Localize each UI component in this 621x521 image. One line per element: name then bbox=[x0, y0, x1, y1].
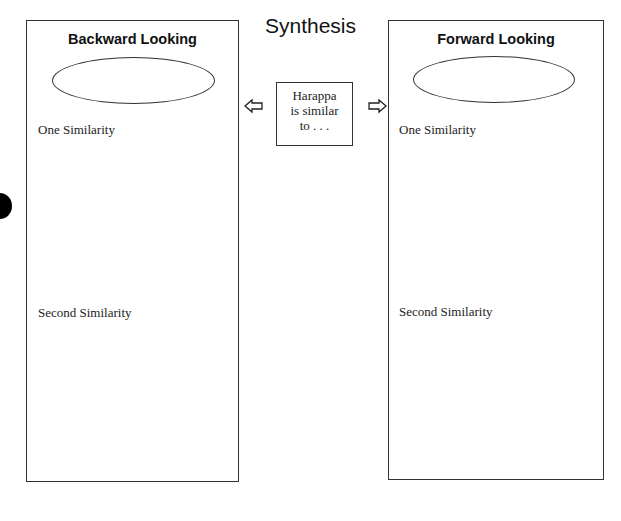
second-similarity-label: Second Similarity bbox=[38, 305, 132, 321]
second-similarity-label: Second Similarity bbox=[399, 304, 493, 320]
first-similarity-label: One Similarity bbox=[38, 122, 115, 138]
center-line-2: is similar bbox=[277, 103, 352, 118]
backward-looking-panel: Backward Looking One Similarity Second S… bbox=[26, 20, 239, 482]
answer-oval[interactable] bbox=[52, 57, 215, 104]
center-line-1: Harappa bbox=[277, 88, 352, 103]
forward-looking-panel: Forward Looking One Similarity Second Si… bbox=[388, 20, 604, 480]
panel-heading: Forward Looking bbox=[389, 31, 603, 47]
center-line-3: to . . . bbox=[277, 118, 352, 133]
harappa-box: Harappa is similar to . . . bbox=[276, 82, 353, 146]
panel-heading: Backward Looking bbox=[27, 31, 238, 47]
arrow-right-icon bbox=[367, 98, 387, 114]
margin-dot-icon bbox=[0, 193, 12, 219]
arrow-left-icon bbox=[244, 98, 264, 114]
answer-oval[interactable] bbox=[413, 56, 575, 103]
first-similarity-label: One Similarity bbox=[399, 122, 476, 138]
